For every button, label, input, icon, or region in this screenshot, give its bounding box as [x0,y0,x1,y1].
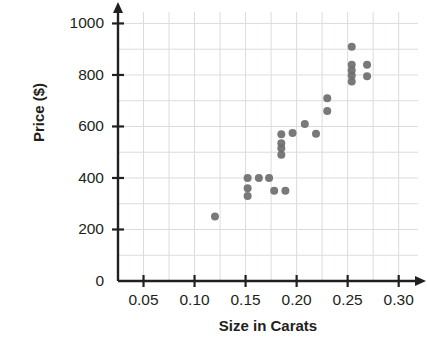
data-point [265,174,273,182]
data-point [255,174,263,182]
scatter-plot: Price ($) Size in Carats 020040060080010… [0,0,427,343]
data-point [281,187,289,195]
data-point [312,130,320,138]
data-point [289,129,297,137]
axis-tick-marks [112,23,399,287]
data-point [277,151,285,159]
data-point [363,61,371,69]
data-point [363,72,371,80]
data-point [348,77,356,85]
data-point [244,192,252,200]
axis-lines [113,2,426,286]
data-point [244,174,252,182]
grid-lines [118,12,418,281]
data-point [270,187,278,195]
data-point-group [211,43,371,221]
data-point [211,213,219,221]
data-point [277,130,285,138]
data-point [323,94,331,102]
data-point [323,107,331,115]
data-point [244,184,252,192]
plot-area [0,0,427,343]
data-point [301,120,309,128]
data-point [348,43,356,51]
